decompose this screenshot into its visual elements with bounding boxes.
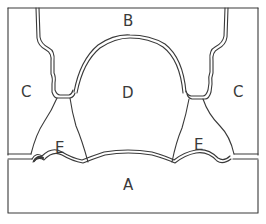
diagram-canvas: B C D C E E A <box>0 0 266 224</box>
right-neck-inner <box>187 8 228 99</box>
label-e-left: E <box>55 139 64 157</box>
region-e-left-outline <box>31 98 57 154</box>
right-neck-outer <box>186 8 225 96</box>
diagram-svg: B C D C E E A <box>0 0 266 224</box>
label-b: B <box>123 12 133 30</box>
label-c-left: C <box>21 83 31 101</box>
label-a: A <box>123 176 134 194</box>
label-c-right: C <box>233 83 243 101</box>
region-e-left-inner-edge <box>70 98 88 162</box>
label-e-right: E <box>194 136 203 154</box>
left-neck-inner <box>39 8 73 95</box>
region-e-right-outline <box>203 99 234 154</box>
label-d: D <box>122 84 134 102</box>
